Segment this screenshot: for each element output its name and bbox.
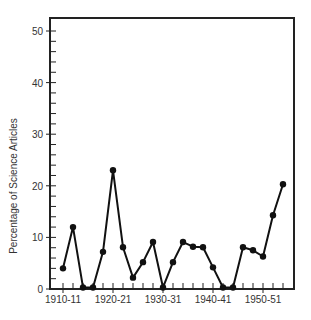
data-point — [160, 284, 166, 290]
x-tick-label: 1930-31 — [145, 294, 182, 305]
y-tick-label: 30 — [32, 129, 44, 140]
y-tick-label: 10 — [32, 232, 44, 243]
data-point — [170, 259, 176, 265]
data-point — [70, 224, 76, 230]
data-point — [260, 253, 266, 259]
x-tick-labels: 1910-111920-211930-311940-411950-51 — [45, 294, 282, 305]
y-tick-label: 0 — [37, 284, 43, 295]
y-axis-title: Percentage of Science Articles — [8, 118, 19, 254]
y-tick-label: 50 — [32, 26, 44, 37]
data-point — [80, 284, 86, 290]
series-line — [63, 170, 283, 287]
x-tick-label: 1920-21 — [95, 294, 132, 305]
data-point — [220, 284, 226, 290]
x-tick-label: 1950-51 — [245, 294, 282, 305]
axis-ticks — [46, 31, 283, 293]
data-point — [270, 212, 276, 218]
data-point — [280, 181, 286, 187]
data-point — [200, 244, 206, 250]
plot-frame — [50, 18, 294, 289]
data-point — [230, 284, 236, 290]
data-series — [60, 167, 286, 291]
data-point — [130, 274, 136, 280]
data-point — [180, 239, 186, 245]
data-point — [60, 265, 66, 271]
data-point — [240, 244, 246, 250]
data-point — [100, 249, 106, 255]
data-point — [210, 264, 216, 270]
data-point — [190, 243, 196, 249]
data-point — [140, 259, 146, 265]
y-tick-label: 20 — [32, 181, 44, 192]
data-point — [90, 284, 96, 290]
data-point — [150, 239, 156, 245]
data-point — [110, 167, 116, 173]
y-tick-label: 40 — [32, 78, 44, 89]
x-tick-label: 1940-41 — [195, 294, 232, 305]
y-tick-labels: 01020304050 — [32, 26, 44, 295]
line-chart: 01020304050 1910-111920-211930-311940-41… — [0, 0, 311, 320]
data-point — [250, 247, 256, 253]
data-point — [120, 244, 126, 250]
x-tick-label: 1910-11 — [45, 294, 81, 305]
